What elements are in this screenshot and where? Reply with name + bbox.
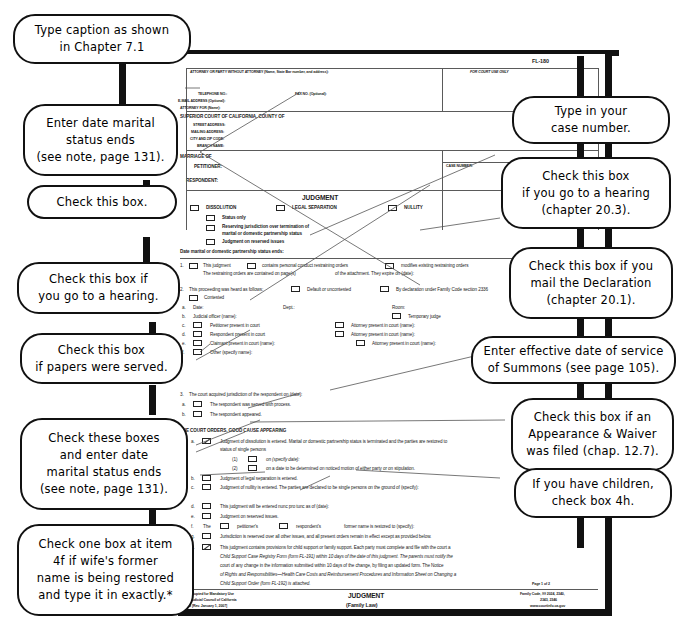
item2-default: Default or uncontested <box>307 287 351 292</box>
orders-c-label: Judgment of nullity is entered. The part… <box>220 485 419 490</box>
mailing-label: MAILING ADDRESS: <box>191 130 224 134</box>
orders-f-post: former name is restored to (specify): <box>344 524 414 529</box>
item3-a-label: The respondent was served with process. <box>210 402 291 407</box>
item3-a-letter: a. <box>182 402 186 407</box>
callout-check-this-box-line-0: Check this box. <box>56 194 147 211</box>
orders-b-label: Judgment of legal separation is entered. <box>220 476 298 481</box>
orders-a2-label: on a date to be determined on noticed mo… <box>266 466 415 471</box>
checkbox-respondent-appeared[interactable] <box>193 411 202 417</box>
checkbox-item1[interactable] <box>189 263 198 269</box>
item2-row-a-room: Room: <box>392 305 405 310</box>
checkbox-claimant-present[interactable] <box>193 340 202 346</box>
checkbox-respondent-former-name[interactable] <box>279 523 288 529</box>
item2-contested: Contested <box>204 295 224 300</box>
checkbox-legal-separation[interactable] <box>276 205 285 211</box>
right-spine-1 <box>577 56 584 96</box>
callout-hearing-box-203-line-1: if you go to a hearing <box>522 185 650 202</box>
reserving-line1: Reserving jurisdiction over termination … <box>222 224 309 229</box>
telephone-label: TELEPHONE NO.: <box>198 92 227 96</box>
checkbox-default-uncontested[interactable] <box>291 286 300 292</box>
checkbox-jurisdiction-reserved[interactable] <box>202 533 211 539</box>
footer-subtitle: (Family Law) <box>346 602 377 608</box>
page-label: Page 1 of 2 <box>532 582 550 586</box>
orders-h-l2: Child Support Case Registry Form (form F… <box>220 554 453 559</box>
checkbox-a2-noticed-motion[interactable] <box>248 465 257 471</box>
orders-f-respondent: respondent's <box>296 524 321 529</box>
callout-case-number-line-1: case number. <box>551 120 631 137</box>
callout-hearing-box-line-1: you go to a hearing. <box>38 288 158 305</box>
checkbox-respondent-present[interactable] <box>193 331 202 337</box>
checkbox-temporary-judge[interactable] <box>392 313 401 319</box>
footer-title: JUDGMENT <box>348 592 384 599</box>
callout-hearing-box-203-line-2: (chapter 20.3). <box>522 202 650 219</box>
callout-caption-line-0: Type caption as shown <box>35 22 169 39</box>
item2-row-e-label: Claimant present in court (name): <box>210 341 275 346</box>
item2-row-d-right: Attorney present in court (name): <box>351 332 415 337</box>
checkbox-a1-specify-date[interactable] <box>248 456 257 462</box>
checkbox-legal-separation-entered[interactable] <box>202 475 211 481</box>
checkbox-attorney-present-3[interactable] <box>356 340 365 346</box>
item2-row-c-right: Attorney present in court (name): <box>351 323 415 328</box>
checkbox-judgment-dissolution[interactable] <box>202 438 211 444</box>
orders-f-pre: The <box>203 524 211 529</box>
callout-hearing-box-203-line-0: Check this box <box>522 168 650 185</box>
callout-children-box-4h: If you have children, check box 4h. <box>514 468 672 518</box>
item3-lead: The court acquired jurisdiction of the r… <box>189 392 302 397</box>
left-spine-1 <box>119 60 126 110</box>
checkbox-contested[interactable] <box>189 295 198 301</box>
callout-appearance-waiver-line-2: was filed (chap. 12.7). <box>526 443 659 460</box>
item1-c: modifies existing restraining orders <box>401 263 468 268</box>
callout-papers-served-line-1: if papers were served. <box>35 359 168 376</box>
checkbox-other-present[interactable] <box>193 349 202 355</box>
reserving-line2: marital or domestic partnership status <box>222 231 302 236</box>
checkbox-nullity[interactable] <box>388 205 397 211</box>
checkbox-attorney-present-1[interactable] <box>335 322 344 328</box>
checkbox-nullity-entered[interactable] <box>202 484 211 490</box>
petitioner-label: PETITIONER: <box>194 164 222 169</box>
footer-right-2: 2343, 2346 <box>540 598 557 602</box>
orders-h-l5: Child Support Order (form FL-192) is att… <box>220 581 310 586</box>
orders-e-label: Judgment on reserved issues. <box>220 514 278 519</box>
item1-b: contains personal conduct restraining or… <box>262 263 348 268</box>
checkbox-item1-modifies[interactable] <box>385 263 394 269</box>
callout-hearing-box-line-0: Check this box if <box>38 271 158 288</box>
form-number: FL-180 <box>532 58 549 64</box>
checkbox-served-with-process[interactable] <box>193 401 202 407</box>
checkbox-dissolution[interactable] <box>190 205 199 211</box>
item3-number: 3. <box>180 392 184 397</box>
checkbox-petitioner-present[interactable] <box>193 322 202 328</box>
checkbox-reserved-issues-entered[interactable] <box>202 513 211 519</box>
checkbox-nunc-pro-tunc[interactable] <box>202 503 211 509</box>
item2-row-a-dept: Dept.: <box>283 305 295 310</box>
orders-a1-label: on (specify date): <box>266 457 299 462</box>
checkbox-child-support[interactable] <box>202 544 211 550</box>
court-label: SUPERIOR COURT OF CALIFORNIA, COUNTY OF <box>180 114 284 119</box>
checkbox-reserved-issues[interactable] <box>206 239 215 245</box>
item2-row-b-right: Temporary judge <box>408 314 441 319</box>
city-zip-label: CITY AND ZIP CODE: <box>190 137 224 141</box>
orders-a-text2: status of single persons <box>220 447 266 452</box>
checkbox-item1-restraining[interactable] <box>247 263 256 269</box>
item2-number: 2. <box>180 287 184 292</box>
case-number-label: CASE NUMBER: <box>446 164 473 168</box>
callout-check-these-boxes-line-1: and enter date <box>40 447 168 464</box>
checkbox-by-declaration[interactable] <box>380 286 389 292</box>
checkbox-reserving-jurisdiction[interactable] <box>206 225 215 231</box>
footer-right-1: Family Code, §§ 2024, 2340, <box>520 592 565 596</box>
item1-a: This judgment <box>203 263 231 268</box>
email-label: E-MAIL ADDRESS (Optional): <box>178 99 225 103</box>
orders-h-l4: of Rights and Responsibilities—Health Ca… <box>220 572 456 577</box>
checkbox-petitioner-former-name[interactable] <box>220 523 229 529</box>
callout-appearance-waiver: Check this box if an Appearance & Waiver… <box>511 398 674 471</box>
callout-appearance-waiver-line-1: Appearance & Waiver <box>526 426 659 443</box>
callout-service-of-summons: Enter effective date of service of Summo… <box>471 336 676 384</box>
callout-case-number-line-0: Type in your <box>551 103 631 120</box>
callout-former-name-line-0: Check one box at item <box>37 536 174 553</box>
item2-row-b-label: Judicial officer (name): <box>193 314 237 319</box>
checkbox-status-only[interactable] <box>206 215 215 221</box>
callout-check-this-box: Check this box. <box>27 185 177 219</box>
callout-mail-declaration-line-1: mail the Declaration <box>529 275 653 292</box>
checkbox-attorney-present-2[interactable] <box>335 331 344 337</box>
item2-row-b-letter: b. <box>182 314 186 319</box>
orders-a1-number: (1) <box>232 457 237 462</box>
